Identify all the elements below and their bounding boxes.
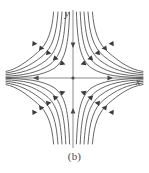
curves-lower-right (76, 78, 143, 144)
flow-arrowhead (46, 50, 52, 55)
x-axis-arrow-right (107, 76, 113, 81)
figure-caption: (b) (0, 150, 149, 162)
flow-arrowhead (46, 101, 52, 106)
y-axis-arrow-upper (71, 42, 76, 48)
curves-lower-left (6, 78, 70, 144)
flow-arrowhead (109, 41, 114, 46)
flow-arrowhead (95, 101, 101, 106)
figure-container: y x (b) (0, 0, 149, 173)
trajectory-curve (6, 12, 54, 71)
y-axis-label: y (64, 8, 70, 19)
trajectory-curve (76, 12, 143, 78)
trajectory-curve (76, 78, 143, 144)
x-axis-arrow-left (33, 76, 39, 81)
phase-portrait-plot: y x (0, 0, 149, 152)
flow-arrowhead (32, 110, 37, 115)
flow-arrowhead (109, 110, 114, 115)
origin-point (71, 76, 74, 79)
trajectory-curve (88, 83, 143, 144)
curves-upper-left (6, 12, 70, 78)
flow-arrowhead (95, 50, 101, 55)
x-axis-label: x (135, 76, 141, 87)
trajectory-curve (92, 85, 143, 144)
curves-upper-right (76, 12, 143, 78)
trajectory-curve (88, 12, 143, 73)
trajectory-curve (6, 85, 54, 144)
trajectory-curve (92, 12, 143, 71)
flow-arrowhead (32, 41, 37, 46)
y-axis-arrow-lower (71, 108, 76, 114)
